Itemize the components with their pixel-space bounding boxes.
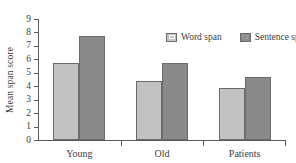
y-axis-tick: 9 — [34, 19, 38, 20]
legend-label: Word span — [181, 32, 222, 42]
y-axis-tick: 7 — [34, 46, 38, 47]
bar — [53, 63, 79, 140]
x-axis-line — [38, 140, 286, 141]
x-axis-category-label: Patients — [229, 148, 261, 159]
bar — [79, 36, 105, 140]
x-axis-tick — [285, 141, 286, 146]
y-axis-tick-label: 5 — [26, 69, 31, 79]
y-axis-tick: 8 — [34, 32, 38, 33]
y-axis-tick-label: 6 — [26, 55, 31, 65]
y-axis-tick: 0 — [34, 140, 38, 141]
y-axis-tick-label: 3 — [26, 95, 31, 105]
y-axis-tick: 2 — [34, 113, 38, 114]
bar-chart: Mean span score 0123456789 YoungOldPatie… — [0, 0, 296, 163]
y-axis-tick: 3 — [34, 100, 38, 101]
legend-item[interactable]: Sentence span — [240, 32, 296, 42]
y-axis-tick-label: 1 — [26, 122, 31, 132]
y-axis-tick-label: 8 — [26, 28, 31, 38]
bar — [219, 88, 245, 140]
bar — [245, 77, 271, 140]
chart-legend: Word spanSentence span — [166, 32, 296, 42]
y-axis-tick: 6 — [34, 59, 38, 60]
y-axis-tick-label: 4 — [26, 82, 31, 92]
y-axis-line — [38, 19, 39, 141]
x-axis-tick — [203, 141, 204, 146]
plot-area: 0123456789 YoungOldPatients Word spanSen… — [38, 14, 286, 141]
y-axis-tick: 4 — [34, 86, 38, 87]
x-axis-category-label: Young — [66, 148, 92, 159]
legend-label: Sentence span — [255, 32, 296, 42]
legend-item[interactable]: Word span — [166, 32, 222, 42]
y-axis-tick: 1 — [34, 127, 38, 128]
y-axis-tick: 5 — [34, 73, 38, 74]
bar — [136, 81, 162, 140]
y-axis-tick-label: 2 — [26, 109, 31, 119]
y-axis-tick-label: 7 — [26, 42, 31, 52]
y-axis-tick-label: 9 — [26, 15, 31, 25]
x-axis-tick — [121, 141, 122, 146]
bar — [162, 63, 188, 140]
legend-swatch-icon — [240, 33, 251, 42]
x-axis-category-label: Old — [155, 148, 170, 159]
legend-swatch-icon — [166, 33, 177, 42]
y-axis-title-text: Mean span score — [5, 47, 15, 113]
y-axis-title: Mean span score — [2, 28, 18, 132]
y-axis-tick-label: 0 — [26, 136, 31, 146]
